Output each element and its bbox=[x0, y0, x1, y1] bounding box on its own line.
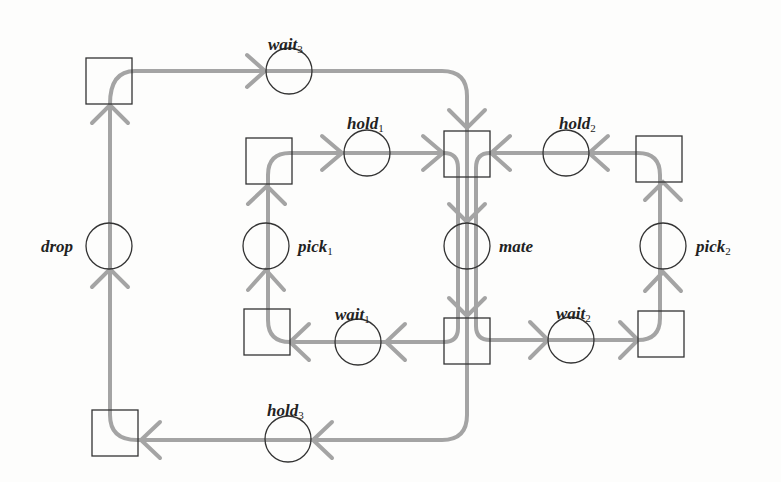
diagram-graphics bbox=[0, 0, 781, 482]
petri-net-diagram: wait3 hold1 hold2 drop pick1 mate pick2 … bbox=[0, 0, 781, 482]
arc-mate-right-strand bbox=[476, 153, 490, 340]
places bbox=[86, 48, 686, 462]
arc-mate-left-strand bbox=[444, 153, 458, 342]
label-pick1: pick1 bbox=[298, 238, 333, 257]
label-wait2: wait2 bbox=[556, 305, 591, 324]
label-drop: drop bbox=[41, 238, 73, 255]
arrow-into-pick2 bbox=[645, 272, 681, 291]
label-hold2: hold2 bbox=[559, 115, 596, 134]
arc-outer-loop bbox=[110, 71, 467, 440]
place-pick2 bbox=[640, 223, 686, 269]
label-wait1: wait1 bbox=[335, 306, 370, 325]
label-pick2: pick2 bbox=[696, 238, 731, 257]
label-hold3: hold3 bbox=[267, 402, 304, 421]
arrow-into-pick2-top bbox=[645, 182, 681, 200]
label-wait3: wait3 bbox=[268, 36, 303, 55]
label-mate: mate bbox=[499, 238, 533, 255]
label-hold1: hold1 bbox=[347, 115, 384, 134]
